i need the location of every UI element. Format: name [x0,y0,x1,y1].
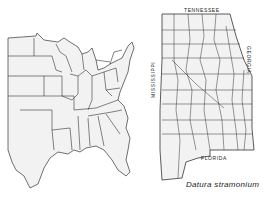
label-georgia: GEORGIA [246,46,252,74]
label-tennessee: TENNESSEE [184,7,220,13]
label-mississippi: MISSISSIPPI [150,62,156,98]
label-florida: FLORIDA [201,155,227,161]
distribution-map [0,0,265,198]
species-caption: Datura stramonium [186,180,259,189]
